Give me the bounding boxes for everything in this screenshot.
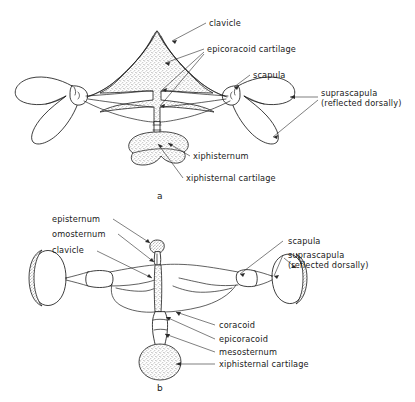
panel-b-left-arm xyxy=(110,265,158,312)
panel-a-caption: a xyxy=(157,191,163,201)
panel-a-label-scapula: scapula xyxy=(253,70,286,80)
panel-a-label-epicoracoid-cartilage: epicoracoid cartilage xyxy=(207,44,296,54)
panel-a-label-xiphisternum: xiphisternum xyxy=(193,151,249,161)
panel-a-epicoracoid-cartilage xyxy=(100,32,214,125)
panel-b-epicoracoid xyxy=(154,265,162,312)
panel-b-episternum xyxy=(150,240,164,253)
panel-a-label-clavicle: clavicle xyxy=(209,18,241,28)
panel-a: clavicle epicoracoid cartilage scapula s… xyxy=(15,18,401,201)
panel-b-left-suprascapula xyxy=(29,250,88,306)
panel-a-label-suprascapula-note: (reflected dorsally) xyxy=(321,98,402,108)
panel-a-right-suprascapula xyxy=(231,77,295,144)
panel-a-left-scapula xyxy=(70,86,88,105)
panel-b-label-suprascapula: suprascapula xyxy=(288,250,344,260)
panel-b-label-clavicle: clavicle xyxy=(52,245,84,255)
panel-a-left-suprascapula xyxy=(15,77,79,144)
panel-b-label-xiphisternal-cartilage: xiphisternal cartilage xyxy=(219,359,309,369)
panel-a-label-suprascapula: suprascapula xyxy=(321,88,377,98)
panel-b-right-arm xyxy=(160,264,238,312)
anatomical-figure: clavicle epicoracoid cartilage scapula s… xyxy=(0,0,415,402)
panel-b-label-episternum: episternum xyxy=(52,214,100,224)
panel-b-label-epicoracoid: epicoracoid xyxy=(219,334,268,344)
panel-b-mesosternum xyxy=(152,312,167,348)
panel-a-xiphisternum xyxy=(129,132,189,165)
panel-b-label-omosternum: omosternum xyxy=(52,229,106,239)
panel-b-label-mesosternum: mesosternum xyxy=(219,347,277,357)
panel-b-label-suprascapula-note: (reflected dorsally) xyxy=(288,260,369,270)
panel-b-omosternum xyxy=(154,252,161,265)
panel-b-right-scapula xyxy=(236,270,257,287)
panel-b-label-scapula: scapula xyxy=(288,236,321,246)
panel-b-xiphisternal-cartilage xyxy=(139,344,181,380)
panel-b-label-coracoid: coracoid xyxy=(219,320,255,330)
panel-a-label-xiphisternal-cartilage: xiphisternal cartilage xyxy=(186,173,276,183)
panel-b: episternum omosternum clavicle scapula s… xyxy=(29,214,369,393)
panel-b-left-scapula xyxy=(86,271,113,288)
panel-b-caption: b xyxy=(157,383,163,393)
